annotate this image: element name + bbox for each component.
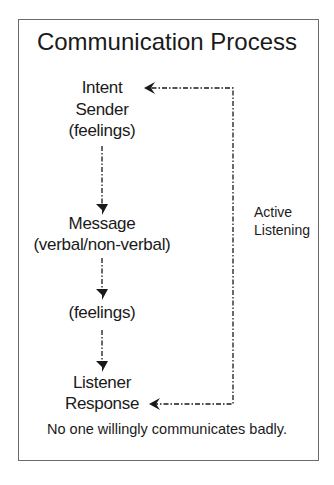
arrowhead-down-icon (96, 289, 108, 300)
arrowhead-down-icon (96, 361, 108, 372)
arrowhead-down-icon (96, 204, 108, 215)
arrow-feedback-loop (150, 88, 233, 404)
arrowhead-left-icon (149, 398, 160, 410)
diagram-connectors (0, 0, 334, 485)
